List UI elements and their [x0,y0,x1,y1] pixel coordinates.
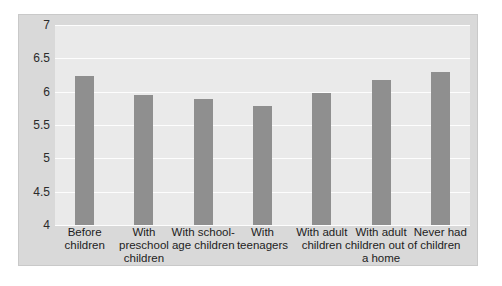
bar[interactable] [75,76,94,225]
y-tick-label: 5.5 [33,118,50,132]
y-tick-label: 7 [43,18,50,32]
y-tick-label: 6.5 [33,51,50,65]
y-tick-label: 4.5 [33,185,50,199]
bar[interactable] [253,106,272,225]
y-tick-label: 5 [43,151,50,165]
bar[interactable] [194,99,213,225]
x-axis: Before childrenWith preschool childrenWi… [55,225,470,267]
bar-series [55,25,470,225]
bar[interactable] [431,72,450,225]
y-axis: 76.565.554.54 [19,15,55,225]
y-tick-label: 6 [43,85,50,99]
chart-frame: 76.565.554.54 Before childrenWith presch… [18,14,478,266]
bar[interactable] [312,93,331,225]
bar[interactable] [372,80,391,225]
x-tick-label: Never had children [403,226,477,252]
bar[interactable] [134,95,153,225]
